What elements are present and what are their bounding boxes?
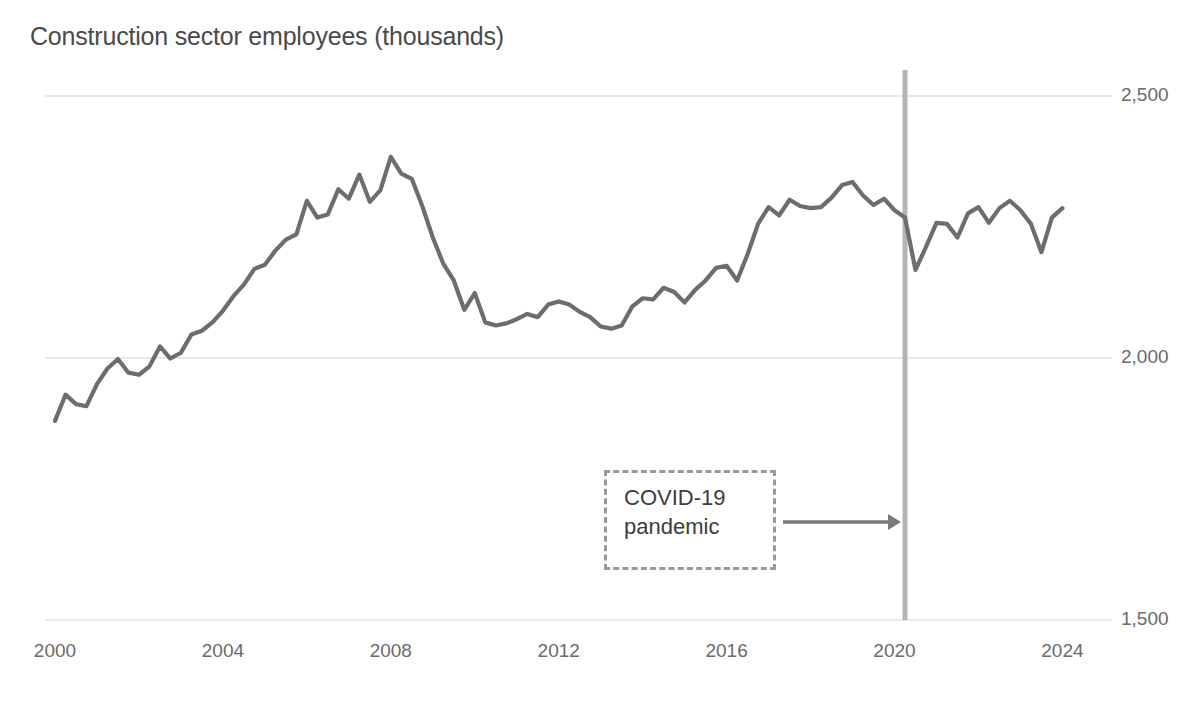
gridlines-group — [45, 96, 1112, 620]
line-chart: Construction sector employees (thousands… — [0, 0, 1187, 704]
ytick-label-2000: 2,000 — [1121, 346, 1169, 368]
xtick-label-2004: 2004 — [188, 640, 258, 662]
xtick-label-2000: 2000 — [20, 640, 90, 662]
data-series-line — [55, 157, 1062, 421]
chart-plot-area — [0, 0, 1187, 704]
covid-annotation-label: COVID-19 pandemic — [624, 483, 784, 541]
xtick-label-2016: 2016 — [692, 640, 762, 662]
annotation-arrow — [783, 514, 901, 530]
xtick-label-2024: 2024 — [1027, 640, 1097, 662]
ytick-label-1500: 1,500 — [1121, 608, 1169, 630]
xtick-label-2020: 2020 — [860, 640, 930, 662]
xtick-label-2008: 2008 — [356, 640, 426, 662]
ytick-label-2500: 2,500 — [1121, 84, 1169, 106]
xtick-label-2012: 2012 — [524, 640, 594, 662]
